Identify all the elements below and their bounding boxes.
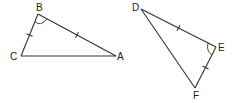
angle-arc-b <box>35 19 47 24</box>
side-df <box>141 9 195 88</box>
vertex-label-d: D <box>132 2 139 13</box>
vertex-label-c: C <box>10 51 17 62</box>
vertex-label-f: F <box>193 90 199 101</box>
triangle-abc: B C A <box>10 2 124 62</box>
diagram-canvas: B C A D E F <box>0 0 232 103</box>
vertex-label-b: B <box>36 2 43 13</box>
vertex-label-e: E <box>218 42 225 53</box>
triangle-def: D E F <box>132 2 225 101</box>
vertex-label-a: A <box>117 51 124 62</box>
